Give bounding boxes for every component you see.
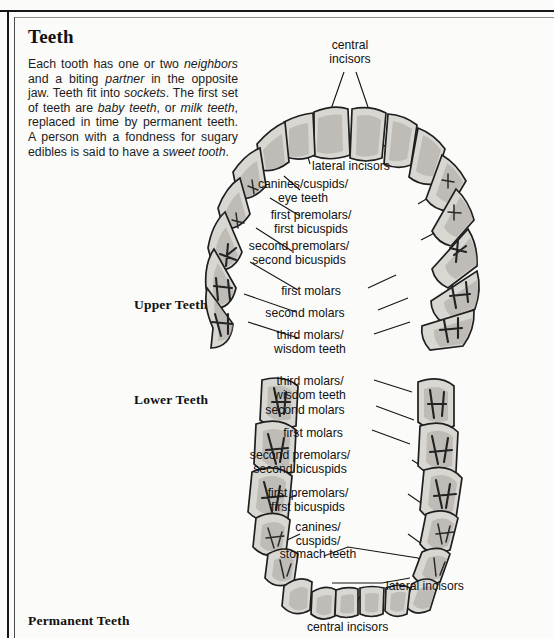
label-lower-lateral-incisors: lateral incisors (386, 580, 464, 594)
label-upper-first-premolars: first premolars/first bicuspids (0, 209, 554, 236)
label-lower-third-molars: third molars/wisdom teeth (0, 375, 554, 402)
label-line: stomach teeth (0, 548, 554, 562)
label-line: incisors (0, 53, 554, 67)
label-lower-first-molars: first molars (0, 427, 554, 441)
page-frame-top-hairline (14, 17, 554, 18)
label-lower-canines: canines/cuspids/stomach teeth (0, 521, 554, 562)
label-upper-lateral-incisors: lateral incisors (312, 160, 390, 174)
tooth-lower-canine-left (282, 579, 312, 614)
body-run: . (226, 145, 229, 159)
label-line: wisdom teeth (0, 389, 554, 403)
label-line: second molars (0, 404, 554, 418)
label-line: eye teeth (0, 192, 554, 206)
tooth-upper-lateral-incisor-left (284, 113, 315, 159)
label-line: second bicuspids (0, 254, 554, 268)
tooth-upper-central-incisor-right (350, 108, 386, 161)
label-line: second premolars/ (0, 240, 554, 254)
tooth-upper-central-incisor-left (314, 107, 350, 159)
tooth-upper-canine-right (409, 128, 445, 184)
label-line: canines/cuspids/ (0, 178, 554, 192)
label-line: lateral incisors (312, 160, 390, 174)
label-line: first bicuspids (0, 501, 554, 515)
label-line: second premolars/ (0, 449, 554, 463)
label-line: canines/ (0, 521, 554, 535)
label-lower-second-premolars: second premolars/second bicuspids (0, 449, 554, 476)
label-line: central incisors (307, 621, 388, 635)
tooth-lower-central-incisor-right (360, 587, 384, 617)
label-line: central (0, 39, 554, 53)
body-run: , or (157, 101, 181, 115)
emphasis-term: sweet tooth (163, 145, 226, 159)
label-line: cuspids/ (0, 535, 554, 549)
label-upper-third-molars: third molars/wisdom teeth (0, 329, 554, 356)
tooth-lower-lateral-incisor-left (311, 587, 336, 619)
body-run: and a biting (28, 72, 105, 86)
label-line: first premolars/ (0, 487, 554, 501)
page-frame-top-rule (0, 10, 554, 12)
label-upper-second-premolars: second premolars/second bicuspids (0, 240, 554, 267)
label-line: second molars (0, 307, 554, 321)
label-line: first molars (0, 427, 554, 441)
tooth-upper-canine-left (257, 122, 289, 171)
label-upper-second-molars: second molars (0, 307, 554, 321)
body-text: Each tooth has one or two neighbors and … (28, 57, 238, 159)
emphasis-term: partner (105, 72, 144, 86)
label-upper-canines: canines/cuspids/eye teeth (0, 178, 554, 205)
label-line: second bicuspids (0, 463, 554, 477)
emphasis-term: sockets (124, 86, 166, 100)
label-lower-central-incisors: central incisors (307, 621, 388, 635)
label-line: first premolars/ (0, 209, 554, 223)
label-line: first bicuspids (0, 223, 554, 237)
label-line: wisdom teeth (0, 343, 554, 357)
label-upper-first-molars: first molars (0, 285, 554, 299)
caption-permanent-teeth: Permanent Teeth (28, 613, 130, 629)
label-lower-second-molars: second molars (0, 404, 554, 418)
illustrated-page: Teeth Each tooth has one or two neighbor… (0, 0, 554, 638)
label-line: lateral incisors (386, 580, 464, 594)
label-line: third molars/ (0, 375, 554, 389)
label-line: first molars (0, 285, 554, 299)
emphasis-term: milk teeth (181, 101, 235, 115)
tooth-lower-central-incisor-left (335, 588, 358, 618)
label-lower-first-premolars: first premolars/first bicuspids (0, 487, 554, 514)
label-line: third molars/ (0, 329, 554, 343)
emphasis-term: baby teeth (98, 101, 157, 115)
label-upper-central-incisors: centralincisors (0, 39, 554, 66)
